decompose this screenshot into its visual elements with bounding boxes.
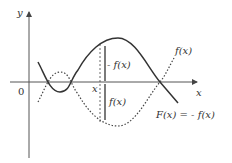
y-axis-label: y (16, 7, 23, 18)
point-x-label: x (92, 83, 98, 94)
solid-curve-F (38, 38, 178, 103)
origin-label: 0 (18, 86, 24, 97)
lower-segment-label: f(x) (108, 96, 126, 107)
dotted-curve-label: f(x) (174, 45, 192, 56)
solid-curve-label: F(x) = - f(x) (155, 109, 215, 120)
diagram-canvas: y 0 x x - f(x) f(x) f(x) F(x) = - f(x) (0, 0, 232, 163)
upper-segment-label: - f(x) (107, 59, 131, 70)
x-axis-label: x (196, 87, 202, 98)
